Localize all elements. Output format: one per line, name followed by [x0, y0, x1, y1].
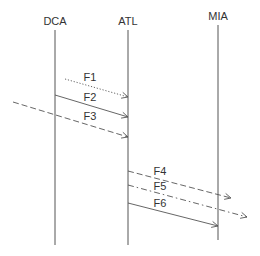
message-label: F3: [84, 110, 97, 122]
lifeline-label: DCA: [43, 15, 67, 27]
lifelines: DCAATLMIA: [43, 10, 228, 245]
message-f3: F3: [13, 102, 128, 138]
lifeline-label: ATL: [118, 15, 137, 27]
message-arrow-line: [13, 102, 128, 137]
message-arrow-line: [128, 203, 218, 226]
message-label: F6: [154, 197, 167, 209]
message-arrow-line: [128, 171, 231, 198]
message-f4: F4: [128, 165, 231, 199]
message-label: F4: [154, 165, 167, 177]
lifeline-atl: ATL: [118, 15, 137, 245]
message-label: F1: [84, 71, 97, 83]
arrowhead-icon: [121, 132, 128, 138]
message-arrow-line: [128, 185, 247, 217]
lifeline-label: MIA: [208, 10, 228, 22]
arrowhead-icon: [121, 92, 128, 98]
message-label: F2: [84, 91, 97, 103]
message-arrow-line: [65, 79, 128, 97]
message-label: F5: [154, 180, 167, 192]
messages: F1F2F3F4F5F6: [13, 71, 247, 227]
message-f6: F6: [128, 197, 218, 227]
lifeline-dca: DCA: [43, 15, 67, 245]
lifeline-mia: MIA: [208, 10, 228, 240]
sequence-diagram: DCAATLMIA F1F2F3F4F5F6: [0, 0, 260, 256]
message-f1: F1: [65, 71, 128, 98]
message-f5: F5: [128, 180, 247, 218]
